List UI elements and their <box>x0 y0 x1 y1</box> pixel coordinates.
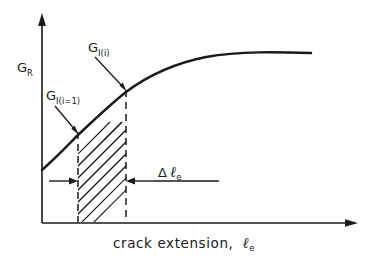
x-axis <box>42 219 358 226</box>
figure-container: GI(i) GI(i=1) Δℓe GR <box>0 0 391 264</box>
dimension-delta-le: Δℓe <box>49 163 219 185</box>
y-axis <box>38 13 46 223</box>
annotation-g-lower-label: GI(i=1) <box>46 88 80 106</box>
hatched-increment-region <box>0 122 194 246</box>
annotation-g-upper-label: GI(i) <box>88 40 110 58</box>
annotation-g-lower-leader <box>55 106 76 131</box>
dimension-arrowhead-right <box>126 177 135 184</box>
y-axis-arrowhead <box>38 13 46 26</box>
dimension-delta-label: Δℓe <box>158 163 181 182</box>
x-axis-label: crack extension,ℓe <box>113 234 255 253</box>
y-axis-label: GR <box>17 60 33 78</box>
resistance-curve <box>42 52 311 170</box>
x-axis-arrowhead <box>345 219 358 226</box>
dimension-arrowhead-left <box>69 177 78 184</box>
annotation-g-lower: GI(i=1) <box>46 88 80 135</box>
r-curve-diagram: GI(i) GI(i=1) Δℓe GR <box>0 0 391 264</box>
annotation-g-upper-leader <box>95 57 124 88</box>
annotation-g-upper: GI(i) <box>88 40 127 92</box>
